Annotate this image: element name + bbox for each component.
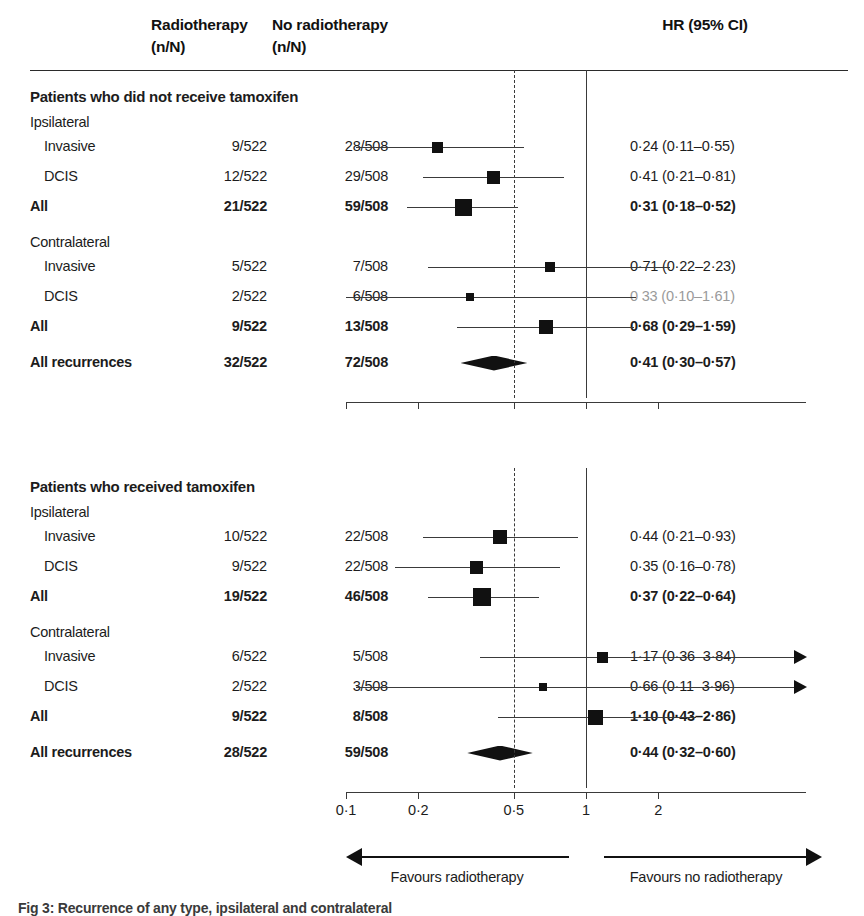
row-no-tamoxifen-ipsilateral-all-label: All xyxy=(30,198,48,214)
row-no-tamoxifen-contralateral-dcis-hr-value: 0 33 (0·10–1·61) xyxy=(630,288,860,304)
row-tamoxifen-ipsilateral-all-point-estimate xyxy=(473,588,491,606)
group-label-tamoxifen-ipsilateral: Ipsilateral xyxy=(30,504,89,520)
panel-title-tamoxifen: Patients who received tamoxifen xyxy=(30,478,255,495)
row-no-tamoxifen-contralateral-dcis-label: DCIS xyxy=(44,288,78,304)
row-tamoxifen-contralateral-invasive-ci-arrow-icon xyxy=(794,650,807,664)
row-no-tamoxifen-contralateral-all-hr-value: 0·68 (0·29–1·59) xyxy=(630,318,860,334)
row-tamoxifen-ipsilateral-dcis-radiotherapy-count: 9/522 xyxy=(151,558,267,574)
x-axis-tick-tamoxifen-02 xyxy=(418,792,419,799)
row-no-tamoxifen-contralateral-all-radiotherapy-count: 9/522 xyxy=(151,318,267,334)
panel-title-no-tamoxifen: Patients who did not receive tamoxifen xyxy=(30,88,298,105)
row-no-tamoxifen-ipsilateral-dcis-hr-value: 0·41 (0·21–0·81) xyxy=(630,168,860,184)
row-tamoxifen-ipsilateral-invasive-radiotherapy-count: 10/522 xyxy=(151,528,267,544)
header-divider xyxy=(30,70,848,71)
x-axis-tick-tamoxifen-01 xyxy=(346,792,347,799)
row-no-tamoxifen-contralateral-dcis-no-radiotherapy-count: 6/508 xyxy=(272,288,388,304)
reference-line-dashed-panel-no-tamoxifen xyxy=(514,70,515,398)
row-no-tamoxifen-ipsilateral-invasive-no-radiotherapy-count: 28/508 xyxy=(272,138,388,154)
row-tamoxifen-contralateral-invasive-confidence-interval xyxy=(480,657,794,658)
row-tamoxifen-contralateral-dcis-label: DCIS xyxy=(44,678,78,694)
row-tamoxifen-contralateral-all-point-estimate xyxy=(588,710,603,725)
row-tamoxifen-ipsilateral-invasive-hr-value: 0·44 (0·21–0·93) xyxy=(630,528,860,544)
row-tamoxifen-all-recurrences-summary-diamond xyxy=(467,746,533,761)
row-tamoxifen-ipsilateral-dcis-hr-value: 0·35 (0·16–0·78) xyxy=(630,558,860,574)
column-header-radiotherapy: Radiotherapy (n/N) xyxy=(151,14,269,59)
row-tamoxifen-contralateral-dcis-ci-arrow-icon xyxy=(794,680,807,694)
row-no-tamoxifen-ipsilateral-invasive-hr-value: 0·24 (0·11–0·55) xyxy=(630,138,860,154)
x-axis-tick-label-01: 0·1 xyxy=(316,802,376,818)
row-tamoxifen-all-recurrences-no-radiotherapy-count: 59/508 xyxy=(272,744,388,760)
column-header-hr: HR (95% CI) xyxy=(560,14,850,36)
favours-no-radiotherapy-line xyxy=(604,856,808,858)
reference-line-null-panel-tamoxifen xyxy=(586,468,587,788)
row-tamoxifen-contralateral-all-label: All xyxy=(30,708,48,724)
row-tamoxifen-contralateral-invasive-label: Invasive xyxy=(44,648,95,664)
row-no-tamoxifen-all-recurrences-label: All recurrences xyxy=(30,354,132,370)
row-no-tamoxifen-contralateral-invasive-radiotherapy-count: 5/522 xyxy=(151,258,267,274)
row-no-tamoxifen-contralateral-invasive-no-radiotherapy-count: 7/508 xyxy=(272,258,388,274)
row-tamoxifen-contralateral-dcis-point-estimate xyxy=(539,683,547,691)
row-tamoxifen-contralateral-invasive-no-radiotherapy-count: 5/508 xyxy=(272,648,388,664)
reference-line-null-panel-no-tamoxifen xyxy=(586,70,587,398)
x-axis-tick-tamoxifen-05 xyxy=(514,792,515,799)
x-axis-tick-tamoxifen-1 xyxy=(586,792,587,799)
row-tamoxifen-contralateral-invasive-hr-value: 1·17 (0·36–3·84) xyxy=(630,648,860,664)
row-tamoxifen-ipsilateral-dcis-no-radiotherapy-count: 22/508 xyxy=(272,558,388,574)
row-tamoxifen-contralateral-invasive-radiotherapy-count: 6/522 xyxy=(151,648,267,664)
x-axis-tick-no-tamoxifen-1 xyxy=(586,402,587,409)
row-no-tamoxifen-all-recurrences-no-radiotherapy-count: 72/508 xyxy=(272,354,388,370)
row-tamoxifen-ipsilateral-invasive-point-estimate xyxy=(493,530,507,544)
favours-no-radiotherapy-label: Favours no radiotherapy xyxy=(596,869,816,885)
group-label-tamoxifen-contralateral: Contralateral xyxy=(30,624,110,640)
column-header-no-radiotherapy-line1: No radiotherapy xyxy=(272,14,422,36)
row-tamoxifen-ipsilateral-all-label: All xyxy=(30,588,48,604)
column-header-no-radiotherapy-line2: (n/N) xyxy=(272,36,422,58)
x-axis-tick-label-2: 2 xyxy=(628,802,688,818)
x-axis-tick-label-05: 0·5 xyxy=(484,802,544,818)
reference-line-dashed-panel-tamoxifen xyxy=(514,468,515,788)
row-no-tamoxifen-contralateral-invasive-point-estimate xyxy=(545,262,555,272)
favours-no-radiotherapy-arrow-icon xyxy=(806,848,822,866)
row-tamoxifen-contralateral-dcis-confidence-interval xyxy=(356,687,794,688)
row-no-tamoxifen-ipsilateral-dcis-radiotherapy-count: 12/522 xyxy=(151,168,267,184)
row-tamoxifen-contralateral-all-no-radiotherapy-count: 8/508 xyxy=(272,708,388,724)
row-tamoxifen-ipsilateral-all-no-radiotherapy-count: 46/508 xyxy=(272,588,388,604)
row-tamoxifen-ipsilateral-dcis-point-estimate xyxy=(470,561,483,574)
row-no-tamoxifen-contralateral-invasive-hr-value: 0·71 (0·22–2·23) xyxy=(630,258,860,274)
row-tamoxifen-contralateral-dcis-radiotherapy-count: 2/522 xyxy=(151,678,267,694)
row-no-tamoxifen-ipsilateral-invasive-point-estimate xyxy=(432,142,443,153)
row-tamoxifen-ipsilateral-all-radiotherapy-count: 19/522 xyxy=(151,588,267,604)
favours-radiotherapy-label: Favours radiotherapy xyxy=(347,869,567,885)
group-label-no-tamoxifen-ipsilateral: Ipsilateral xyxy=(30,114,89,130)
x-axis-tick-no-tamoxifen-02 xyxy=(418,402,419,409)
x-axis-line-tamoxifen xyxy=(346,792,806,793)
row-tamoxifen-all-recurrences-hr-value: 0·44 (0·32–0·60) xyxy=(630,744,860,760)
row-tamoxifen-contralateral-all-hr-value: 1·10 (0·43–2·86) xyxy=(630,708,860,724)
column-header-no-radiotherapy: No radiotherapy (n/N) xyxy=(272,14,422,59)
figure-caption: Fig 3: Recurrence of any type, ipsilater… xyxy=(18,900,392,916)
row-tamoxifen-contralateral-dcis-no-radiotherapy-count: 3/508 xyxy=(272,678,388,694)
x-axis-tick-no-tamoxifen-01 xyxy=(346,402,347,409)
row-tamoxifen-ipsilateral-invasive-label: Invasive xyxy=(44,528,95,544)
row-no-tamoxifen-contralateral-all-point-estimate xyxy=(539,320,553,334)
row-no-tamoxifen-ipsilateral-all-hr-value: 0·31 (0·18–0·52) xyxy=(630,198,860,214)
x-axis-tick-tamoxifen-2 xyxy=(658,792,659,799)
row-no-tamoxifen-all-recurrences-radiotherapy-count: 32/522 xyxy=(151,354,267,370)
row-tamoxifen-contralateral-invasive-point-estimate xyxy=(597,652,608,663)
row-no-tamoxifen-ipsilateral-invasive-label: Invasive xyxy=(44,138,95,154)
row-tamoxifen-all-recurrences-radiotherapy-count: 28/522 xyxy=(151,744,267,760)
row-no-tamoxifen-contralateral-dcis-confidence-interval xyxy=(346,297,636,298)
x-axis-tick-label-1: 1 xyxy=(556,802,616,818)
group-label-no-tamoxifen-contralateral: Contralateral xyxy=(30,234,110,250)
row-tamoxifen-all-recurrences-label: All recurrences xyxy=(30,744,132,760)
row-no-tamoxifen-contralateral-all-label: All xyxy=(30,318,48,334)
row-no-tamoxifen-ipsilateral-all-no-radiotherapy-count: 59/508 xyxy=(272,198,388,214)
x-axis-tick-no-tamoxifen-05 xyxy=(514,402,515,409)
row-no-tamoxifen-ipsilateral-all-point-estimate xyxy=(455,199,472,216)
row-no-tamoxifen-all-recurrences-summary-diamond xyxy=(461,356,528,371)
row-no-tamoxifen-ipsilateral-dcis-label: DCIS xyxy=(44,168,78,184)
x-axis-tick-no-tamoxifen-2 xyxy=(658,402,659,409)
row-tamoxifen-ipsilateral-invasive-no-radiotherapy-count: 22/508 xyxy=(272,528,388,544)
row-no-tamoxifen-contralateral-dcis-point-estimate xyxy=(466,293,474,301)
